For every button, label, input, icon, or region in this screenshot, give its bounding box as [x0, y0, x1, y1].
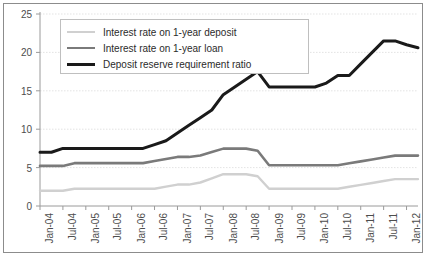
y-axis-tick-label: 20	[10, 47, 32, 58]
x-axis-tick-label: Jan-10	[319, 213, 330, 244]
x-axis-tick-label: Jan-11	[365, 213, 376, 243]
x-axis-tick-label: Jan-07	[181, 213, 192, 244]
x-axis-tick-label: Jul-07	[204, 213, 215, 240]
x-axis-tick-label: Jan-06	[136, 213, 147, 244]
legend-label: Interest rate on 1-year deposit	[103, 27, 236, 38]
line-chart: 0510152025 Jan-04Jul-04Jan-05Jul-05Jan-0…	[4, 4, 424, 254]
y-axis-tick-label: 10	[10, 124, 32, 135]
x-axis-tick-label: Jul-10	[342, 213, 353, 240]
x-axis-tick-label: Jul-08	[250, 213, 261, 240]
legend-entry-1: Interest rate on 1-year loan	[61, 40, 308, 56]
legend-swatch-icon	[67, 31, 95, 33]
x-axis-tick-label: Jan-05	[90, 213, 101, 244]
legend-swatch-icon	[67, 63, 95, 66]
y-axis-tick-label: 0	[10, 201, 32, 212]
x-axis-tick-label: Jul-06	[159, 213, 170, 240]
legend-label: Interest rate on 1-year loan	[103, 43, 223, 54]
x-axis-tick-label: Jul-11	[388, 213, 399, 240]
x-axis-tick-label: Jul-05	[113, 213, 124, 240]
x-axis-tick-label: Jan-12	[411, 213, 422, 244]
y-axis-tick-label: 5	[10, 162, 32, 173]
legend-label: Deposit reserve requirement ratio	[103, 59, 251, 70]
x-axis-tick-label: Jan-09	[273, 213, 284, 244]
y-axis-tick-label: 15	[10, 85, 32, 96]
x-axis-tick-label: Jan-08	[227, 213, 238, 244]
y-axis-tick-label: 25	[10, 9, 32, 20]
x-axis-tick-label: Jan-04	[44, 213, 55, 244]
series-line-0	[40, 174, 418, 191]
x-axis-tickmarks	[40, 206, 407, 210]
x-axis-tick-label: Jul-09	[296, 213, 307, 240]
legend-swatch-icon	[67, 47, 95, 49]
series-line-1	[40, 149, 418, 166]
legend-entry-0: Interest rate on 1-year deposit	[61, 24, 308, 40]
legend-entry-2: Deposit reserve requirement ratio	[61, 56, 308, 72]
figure-frame: 0510152025 Jan-04Jul-04Jan-05Jul-05Jan-0…	[3, 3, 423, 253]
x-axis-tick-label: Jul-04	[67, 213, 78, 240]
chart-legend: Interest rate on 1-year depositInterest …	[60, 19, 309, 74]
